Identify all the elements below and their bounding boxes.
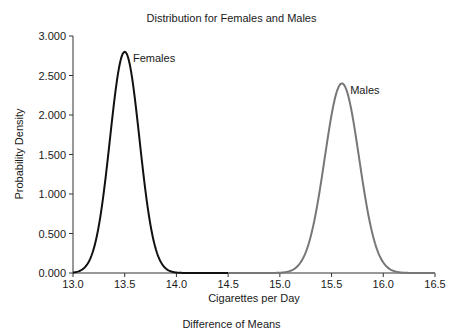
y-tick-label: 1.000: [38, 188, 66, 200]
x-tick-label: 14.0: [166, 278, 187, 290]
curve-females: [73, 52, 228, 273]
x-tick-label: 13.5: [114, 278, 135, 290]
y-tick-label: 2.000: [38, 109, 66, 121]
annotation-females: Females: [133, 52, 176, 64]
y-tick-label: 3.000: [38, 30, 66, 42]
x-tick-label: 14.5: [217, 278, 238, 290]
plot-area: 0.0000.5001.0001.5002.0002.5003.00013.01…: [0, 0, 463, 331]
x-tick-label: 15.5: [321, 278, 342, 290]
curve-males: [228, 83, 435, 273]
axes: 0.0000.5001.0001.5002.0002.5003.00013.01…: [38, 30, 445, 290]
curves: [73, 52, 435, 273]
x-tick-label: 15.0: [269, 278, 290, 290]
x-tick-label: 16.5: [424, 278, 445, 290]
annotation-males: Males: [350, 84, 380, 96]
x-tick-label: 16.0: [373, 278, 394, 290]
annotations: FemalesMales: [133, 52, 380, 96]
x-tick-label: 13.0: [62, 278, 83, 290]
y-tick-label: 1.500: [38, 149, 66, 161]
y-tick-label: 2.500: [38, 70, 66, 82]
y-tick-label: 0.500: [38, 228, 66, 240]
